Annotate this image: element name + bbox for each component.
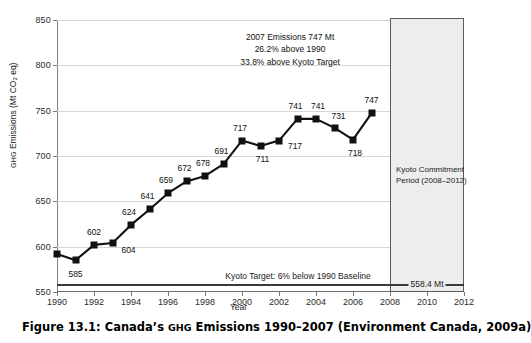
data-point-marker	[109, 240, 116, 247]
y-tick-label: 550	[35, 287, 51, 297]
emissions-annotation: 2007 Emissions 747 Mt 26.2% above 1990 3…	[240, 31, 340, 68]
data-point-marker	[91, 241, 98, 248]
annotation-line-3: 33.8% above Kyoto Target	[240, 57, 340, 67]
data-point-marker	[128, 221, 135, 228]
annotation-line-1: 2007 Emissions 747 Mt	[246, 32, 334, 42]
data-point-marker	[202, 172, 209, 179]
data-point-marker	[331, 124, 338, 131]
data-point-marker	[239, 137, 246, 144]
x-tick-mark	[57, 292, 58, 296]
figure-caption: Figure 13.1: Canada’s GHG Emissions 1990…	[22, 320, 462, 334]
x-tick-mark	[94, 292, 95, 296]
data-point-label: 717	[233, 123, 247, 133]
y-tick-label: 700	[35, 151, 51, 161]
y-axis-title: GHG Emissions (Mt CO2 eq)	[8, 63, 18, 168]
data-point-marker	[183, 178, 190, 185]
y-axis-title-ghg: GHG	[10, 151, 17, 168]
data-point-marker	[257, 143, 264, 150]
x-tick-mark	[353, 292, 354, 296]
data-point-marker	[313, 115, 320, 122]
x-tick-mark	[464, 292, 465, 296]
x-tick-mark	[131, 292, 132, 296]
data-point-label: 741	[311, 101, 325, 111]
data-point-label: 604	[121, 245, 135, 255]
y-tick-label: 800	[35, 60, 51, 70]
data-point-label: 711	[256, 154, 270, 164]
y-tick-label: 850	[35, 15, 51, 25]
data-point-label: 602	[87, 227, 101, 237]
data-point-label: 641	[140, 191, 154, 201]
x-tick-mark	[168, 292, 169, 296]
data-point-label: 659	[159, 175, 173, 185]
plot-area: 550600650700750800850 199019921994199619…	[57, 20, 464, 292]
data-point-label: 624	[122, 207, 136, 217]
data-point-marker	[276, 137, 283, 144]
x-tick-mark	[427, 292, 428, 296]
data-point-label: 731	[331, 111, 345, 121]
annotation-line-2: 26.2% above 1990	[255, 44, 326, 54]
y-tick-label: 600	[35, 242, 51, 252]
data-point-label: 585	[68, 269, 82, 279]
y-axis-title-tail: eq)	[8, 63, 18, 78]
x-tick-mark	[316, 292, 317, 296]
data-point-label: 717	[288, 141, 302, 151]
data-point-label: 678	[196, 158, 210, 168]
caption-title-part1: Canada’s	[105, 320, 168, 334]
x-axis-title: Year	[0, 302, 477, 312]
data-point-label: 691	[214, 146, 228, 156]
data-point-label: 672	[177, 163, 191, 173]
data-point-marker	[368, 110, 375, 117]
x-tick-mark	[205, 292, 206, 296]
x-tick-mark	[390, 292, 391, 296]
data-point-marker	[146, 206, 153, 213]
y-tick-label: 650	[35, 196, 51, 206]
data-point-label: 718	[348, 148, 362, 158]
caption-title-part2: Emissions 1990–2007 (Environment Canada,…	[192, 320, 531, 334]
data-point-marker	[350, 136, 357, 143]
data-point-marker	[294, 115, 301, 122]
data-point-label: 747	[364, 95, 378, 105]
data-point-marker	[54, 250, 61, 257]
y-axis-title-sub: 2	[11, 77, 18, 80]
caption-ghg: GHG	[168, 322, 192, 333]
x-tick-mark	[279, 292, 280, 296]
caption-prefix: Figure 13.1:	[22, 320, 101, 334]
y-tick-label: 750	[35, 106, 51, 116]
data-point-marker	[72, 257, 79, 264]
data-point-label: 741	[288, 101, 302, 111]
data-point-marker	[220, 161, 227, 168]
x-tick-mark	[242, 292, 243, 296]
data-point-marker	[165, 190, 172, 197]
y-axis-title-rest: Emissions (Mt CO	[8, 81, 18, 152]
